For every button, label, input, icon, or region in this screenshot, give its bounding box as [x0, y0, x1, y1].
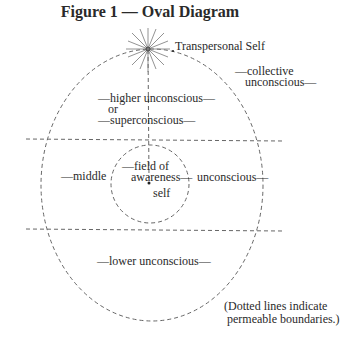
- label-higher-3: —superconscious—: [98, 114, 195, 127]
- label-transpersonal-self: Transpersonal Self: [175, 40, 265, 53]
- label-collective-2: unconscious—: [245, 76, 316, 89]
- label-field-2: awareness—: [131, 171, 192, 184]
- outer-oval: [41, 49, 263, 321]
- upper-boundary: [26, 139, 282, 141]
- label-middle: —middle: [61, 170, 106, 183]
- label-note-2: permeable boundaries.): [227, 313, 340, 326]
- lower-boundary: [26, 229, 282, 231]
- label-unconscious: unconscious—: [197, 171, 268, 184]
- transpersonal-star-icon: [126, 28, 170, 72]
- label-lower-unconscious: —lower unconscious—: [97, 255, 211, 268]
- label-self: self: [153, 187, 170, 200]
